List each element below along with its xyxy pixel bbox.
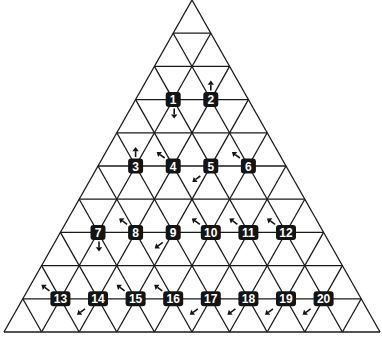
arrow-down-icon	[96, 241, 102, 251]
node-badge-1: 1	[166, 92, 181, 107]
badge-label: 11	[242, 226, 255, 240]
node-badge-2: 2	[203, 92, 218, 107]
badge-label: 4	[170, 160, 177, 174]
grid-diagonal-line	[42, 33, 211, 332]
arrow-head-icon	[96, 247, 102, 251]
node-badge-19: 19	[276, 291, 296, 306]
arrow-up-left-icon	[267, 218, 275, 224]
arrow-shaft	[233, 221, 238, 224]
node-badge-4: 4	[166, 159, 181, 174]
arrow-shaft	[270, 221, 275, 224]
arrow-up-left-icon	[192, 218, 200, 224]
node-badge-20: 20	[314, 291, 334, 306]
arrow-up-left-icon	[154, 285, 162, 291]
arrow-shaft	[195, 221, 200, 224]
arrow-down-icon	[171, 109, 177, 119]
arrow-shaft	[235, 155, 240, 158]
badge-label: 5	[207, 160, 214, 174]
arrow-shaft	[196, 176, 201, 179]
badge-label: 10	[204, 226, 218, 240]
grid-diagonal-line	[60, 232, 116, 332]
arrow-up-icon	[208, 81, 214, 91]
arrow-shaft	[158, 242, 163, 245]
grid-diagonal-line	[173, 33, 342, 332]
arrow-up-left-icon	[232, 152, 240, 158]
badge-label: 8	[132, 226, 139, 240]
node-badge-7: 7	[91, 225, 106, 240]
badge-label: 7	[95, 226, 102, 240]
arrow-up-left-icon	[229, 218, 237, 224]
arrow-head-icon	[132, 147, 138, 151]
arrow-down-left-icon	[190, 309, 198, 315]
badge-label: 14	[91, 292, 105, 306]
node-badge-5: 5	[203, 159, 218, 174]
arrow-down-left-icon	[265, 309, 273, 315]
arrow-shaft	[268, 309, 273, 312]
node-badge-14: 14	[88, 291, 108, 306]
badge-label: 12	[279, 226, 293, 240]
node-badge-13: 13	[50, 291, 70, 306]
arrow-up-left-icon	[41, 285, 49, 291]
grid-diagonal-line	[342, 299, 361, 332]
node-badge-9: 9	[166, 225, 181, 240]
arrow-up-icon	[132, 147, 138, 157]
grid-diagonal-line	[267, 232, 323, 332]
badge-label: 17	[204, 292, 218, 306]
node-badge-11: 11	[238, 225, 258, 240]
triangular-grid	[4, 0, 380, 332]
triangle-grid-diagram: 1234567891011121314151617181920	[0, 0, 382, 343]
grid-diagonal-line	[23, 299, 42, 332]
arrow-shaft	[122, 221, 127, 224]
arrow-down-left-icon	[192, 176, 200, 182]
badge-label: 9	[170, 226, 177, 240]
arrow-shaft	[45, 287, 50, 290]
badge-label: 13	[54, 292, 68, 306]
node-badge-8: 8	[128, 225, 143, 240]
arrow-down-left-icon	[155, 242, 163, 248]
node-badge-12: 12	[276, 225, 296, 240]
node-badge-15: 15	[126, 291, 146, 306]
node-badge-18: 18	[238, 291, 258, 306]
arrow-up-left-icon	[119, 218, 127, 224]
arrow-down-left-icon	[227, 309, 235, 315]
badge-label: 2	[207, 93, 214, 107]
arrow-shaft	[158, 287, 163, 290]
node-badge-17: 17	[201, 291, 221, 306]
node-badge-3: 3	[128, 159, 143, 174]
arrow-up-left-icon	[157, 152, 165, 158]
arrow-shaft	[80, 309, 85, 312]
badge-label: 16	[167, 292, 181, 306]
badge-label: 18	[242, 292, 256, 306]
badge-label: 6	[245, 160, 252, 174]
grid-diagonal-line	[192, 166, 286, 332]
arrow-shaft	[193, 309, 198, 312]
arrow-up-left-icon	[117, 285, 125, 291]
badge-label: 15	[129, 292, 143, 306]
badge-label: 1	[170, 93, 177, 107]
arrow-shaft	[160, 155, 165, 158]
node-badge-6: 6	[241, 159, 256, 174]
arrow-down-left-icon	[303, 309, 311, 315]
badge-label: 3	[132, 160, 139, 174]
grid-diagonal-line	[98, 166, 192, 332]
badge-label: 19	[279, 292, 293, 306]
node-badge-16: 16	[163, 291, 183, 306]
arrow-shaft	[231, 309, 236, 312]
arrow-shaft	[306, 309, 311, 312]
arrow-down-left-icon	[77, 309, 85, 315]
direction-arrows	[41, 81, 310, 315]
arrow-shaft	[120, 287, 125, 290]
node-badge-10: 10	[201, 225, 221, 240]
arrow-head-icon	[171, 114, 177, 118]
arrow-head-icon	[208, 81, 214, 85]
badge-label: 20	[317, 292, 331, 306]
